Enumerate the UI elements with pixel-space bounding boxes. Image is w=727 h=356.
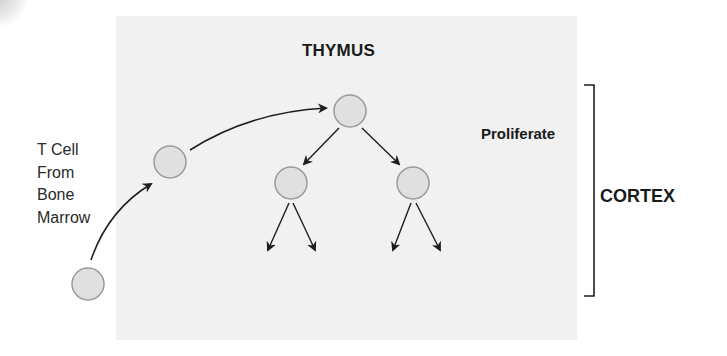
proliferation-arrow: [268, 203, 289, 250]
origin-label-line: From: [37, 162, 90, 185]
thymus-title: THYMUS: [302, 41, 375, 61]
proliferation-arrow: [393, 203, 411, 250]
proliferation-arrow: [293, 203, 315, 250]
marrow-t-cell: [72, 268, 104, 300]
origin-label-line: T Cell: [37, 139, 90, 162]
proliferation-arrow: [416, 203, 440, 250]
migration-arrow-2: [190, 108, 326, 150]
daughter-t-cell-left: [275, 167, 307, 199]
cortex-label: CORTEX: [600, 186, 675, 207]
entering-t-cell: [154, 146, 186, 178]
parent-t-cell: [334, 95, 366, 127]
origin-label-line: Marrow: [37, 207, 90, 230]
origin-label-line: Bone: [37, 184, 90, 207]
cortex-bracket: [584, 85, 594, 296]
daughter-t-cell-right: [397, 167, 429, 199]
division-arrow-right: [362, 128, 399, 164]
migration-arrow-1: [91, 184, 151, 260]
division-arrow-left: [304, 128, 339, 164]
origin-label: T Cell From Bone Marrow: [37, 139, 90, 229]
proliferate-label: Proliferate: [481, 125, 555, 142]
